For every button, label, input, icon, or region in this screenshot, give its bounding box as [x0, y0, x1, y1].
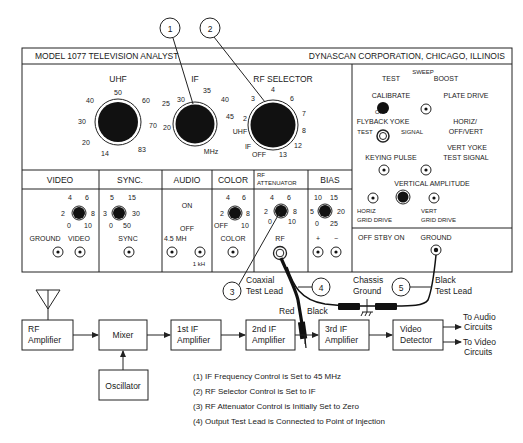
rf-tick: 2 — [243, 115, 247, 122]
plate-drive-jack[interactable] — [421, 104, 431, 114]
bias-minus-jack[interactable] — [331, 247, 341, 257]
callout-number: 3 — [230, 287, 235, 297]
video-tick: 2 — [61, 210, 65, 217]
audio-45-label: 4.5 MH — [164, 235, 187, 242]
rf-att-tick: 4 — [270, 194, 274, 201]
keying-pulse-jack[interactable] — [379, 165, 389, 175]
horiz-grid-drive-jack[interactable] — [368, 193, 378, 203]
ground-jack[interactable] — [431, 245, 441, 255]
block-2nd-if-amplifier: 2nd IF Amplifier — [246, 320, 295, 350]
rf-att-tick: 10 — [288, 218, 296, 225]
sync-tick: 50 — [123, 222, 131, 229]
callout-4: 4 — [298, 278, 330, 296]
note-item: (4) Output Test Lead is Connected to Poi… — [193, 417, 385, 426]
video-output-jack[interactable] — [75, 247, 85, 257]
rf-att-tick: 0 — [268, 218, 272, 225]
black-label: Black — [307, 306, 329, 316]
bias-title: BIAS — [320, 175, 340, 185]
vertical-amplitude-label: VERTICAL AMPLITUDE — [394, 180, 470, 187]
audio-on-label: ON — [182, 202, 193, 209]
color-tick: OFF — [214, 222, 228, 229]
rf-att-tick: 6 — [287, 194, 291, 201]
block-label: RF — [28, 324, 39, 334]
tv-analyst-setup-diagram: MODEL 1077 TELEVISION ANALYST DYNASCAN C… — [0, 0, 523, 443]
to-video-label: Circuits — [464, 347, 492, 357]
block-mixer: Mixer — [99, 320, 147, 350]
color-title: COLOR — [218, 175, 248, 185]
chassis-label: Chassis — [353, 275, 383, 285]
signal-small-label: SIGNAL — [401, 129, 424, 135]
vertical-amplitude-knob[interactable] — [398, 192, 409, 203]
rf-att-tick: 8 — [293, 208, 297, 215]
antenna-icon — [36, 290, 60, 320]
rf-attenuator-knob[interactable] — [275, 205, 287, 217]
block-video-detector: Video Detector — [393, 320, 443, 350]
audio-1k-label: 1 kH — [193, 261, 205, 267]
color-tick: 4 — [226, 194, 230, 201]
audio-45mhz-jack[interactable] — [167, 247, 177, 257]
color-tick: 6 — [242, 194, 246, 201]
sync-jack[interactable] — [124, 247, 134, 257]
black-lead-label: Test Lead — [435, 286, 472, 296]
rf-tick: UHF — [233, 128, 247, 135]
block-label: 2nd IF — [252, 324, 276, 334]
sync-knob[interactable] — [113, 207, 125, 219]
bias-tick: 10 — [314, 194, 322, 201]
callout-number: 5 — [399, 283, 404, 293]
ground-jack-label: GROUND — [29, 235, 60, 242]
bias-tick: 20 — [337, 208, 345, 215]
rf-output-jack[interactable] — [274, 247, 287, 260]
video-jack-label: VIDEO — [68, 235, 90, 242]
rf-selector-label: RF SELECTOR — [253, 74, 312, 84]
test-label: TEST — [382, 75, 401, 82]
sync-tick: 5 — [110, 194, 114, 201]
bias-plus-label: + — [316, 235, 320, 242]
to-video-label: To Video — [463, 337, 496, 347]
rf-tick: 3 — [251, 95, 255, 102]
color-knob[interactable] — [229, 207, 241, 219]
sync-tick: 0 — [109, 222, 113, 229]
flyback-yoke-jack[interactable] — [377, 130, 389, 142]
rf-tick: IF — [245, 143, 251, 150]
video-ground-jack[interactable] — [53, 247, 63, 257]
outputs-labels: To Audio Circuits To Video Circuits — [463, 312, 496, 357]
video-tick: 10 — [84, 222, 92, 229]
plate-drive-label: PLATE DRIVE — [444, 92, 489, 99]
uhf-knob[interactable] — [98, 102, 138, 142]
callout-number: 1 — [168, 24, 173, 34]
block-label: Amplifier — [325, 335, 358, 345]
vert-yoke-jack[interactable] — [421, 165, 431, 175]
if-label: IF — [191, 74, 199, 84]
block-label: Video — [400, 324, 422, 334]
vert-grid-drive-jack[interactable] — [429, 193, 439, 203]
bias-plus-jack[interactable] — [313, 247, 323, 257]
notes-list: (1) IF Frequency Control is Set to 45 MH… — [193, 372, 385, 426]
audio-1khz-jack[interactable] — [195, 247, 205, 257]
uhf-tick: 30 — [78, 118, 86, 125]
uhf-tick: 50 — [114, 89, 122, 96]
coaxial-label: Coaxial — [246, 275, 274, 285]
if-knob[interactable] — [176, 105, 215, 144]
rf-selector-knob[interactable] — [251, 103, 296, 148]
color-tick: 2 — [220, 210, 224, 217]
block-label: Amplifier — [252, 335, 285, 345]
uhf-tick: 83 — [138, 146, 146, 153]
boost-label: BOOST — [434, 75, 459, 82]
rf-tick: 13 — [279, 151, 287, 158]
calibrate-switch[interactable] — [377, 102, 389, 114]
block-label: Mixer — [113, 330, 134, 340]
chassis-label: Ground — [353, 286, 382, 296]
block-label: 1st IF — [177, 324, 198, 334]
color-jack[interactable] — [228, 247, 238, 257]
video-knob[interactable] — [73, 207, 85, 219]
maker-label: DYNASCAN CORPORATION, CHICAGO, ILLINOIS — [309, 51, 506, 61]
note-item: (2) RF Selector Control is Set to IF — [193, 387, 316, 396]
rf-tick: 7 — [302, 110, 306, 117]
calibrate-label: CALIBRATE — [372, 92, 411, 99]
audio-title: AUDIO — [174, 175, 201, 185]
color-tick: 10 — [241, 222, 249, 229]
horiz-off-vert-label: OFF/VERT — [449, 128, 484, 135]
horiz-grid-label: GRID DRIVE — [357, 217, 392, 223]
uhf-tick: 14 — [101, 150, 109, 157]
bias-knob[interactable] — [319, 205, 331, 217]
